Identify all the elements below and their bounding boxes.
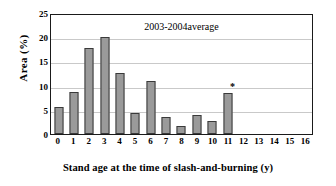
bar-slot	[97, 15, 112, 134]
bar-slot: *	[220, 15, 235, 134]
bar-series: *	[51, 15, 312, 134]
bar	[162, 117, 171, 134]
plot-area: 2003-2004average *	[50, 14, 313, 135]
bar-slot	[66, 15, 81, 134]
bar	[100, 37, 109, 134]
bar	[54, 107, 63, 134]
bar-slot	[51, 15, 66, 134]
y-axis-tick-label: 10	[26, 82, 48, 91]
bar-slot	[281, 15, 296, 134]
y-axis-tick-label: 20	[26, 34, 48, 43]
y-axis-tick-label: 5	[26, 106, 48, 115]
bar-slot	[128, 15, 143, 134]
x-axis-title: Stand age at the time of slash-and-burni…	[0, 162, 336, 173]
y-axis-tick-label: 0	[26, 131, 48, 140]
bar-slot	[235, 15, 250, 134]
y-axis-tick-label: 15	[26, 58, 48, 67]
bar-slot	[266, 15, 281, 134]
bar	[146, 81, 155, 134]
bar	[116, 73, 125, 134]
bar	[131, 113, 140, 134]
bar	[177, 126, 186, 134]
y-axis-tick-labels: 0510152025	[26, 0, 48, 186]
bar	[192, 115, 201, 134]
bar-slot	[297, 15, 312, 134]
bar-slot	[143, 15, 158, 134]
bar-slot	[112, 15, 127, 134]
bar	[70, 92, 79, 134]
y-axis-tick-label: 25	[26, 10, 48, 19]
x-axis-tick-label: 16	[295, 137, 315, 147]
bar-chart: Area (%) 0510152025 2003-2004average * 0…	[0, 0, 336, 186]
bar-slot	[189, 15, 204, 134]
bar-slot	[174, 15, 189, 134]
bar	[85, 48, 94, 134]
bar	[208, 121, 217, 134]
bar-slot	[158, 15, 173, 134]
bar-slot	[82, 15, 97, 134]
bar-slot	[251, 15, 266, 134]
x-axis-tick-labels: 012345678910111213141516	[50, 137, 313, 151]
bar	[223, 93, 232, 134]
bar-slot	[205, 15, 220, 134]
